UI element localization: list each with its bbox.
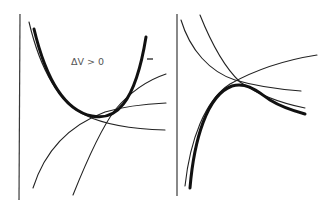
- left-thin-rising-curve-steep: [73, 74, 166, 195]
- figure-canvas: ΔV > 0: [0, 0, 334, 209]
- potential-curves-figure: ΔV > 0: [0, 0, 334, 209]
- right-thick-envelope-curve: [190, 85, 305, 188]
- right-panel: [177, 14, 317, 196]
- right-thin-decreasing-curve-a: [181, 20, 301, 91]
- left-axis: [19, 14, 20, 200]
- right-thin-decreasing-curve-b: [200, 15, 305, 108]
- left-panel: ΔV > 0: [19, 14, 166, 200]
- delta-v-label: ΔV > 0: [71, 56, 104, 67]
- left-thick-envelope-curve: [34, 29, 146, 117]
